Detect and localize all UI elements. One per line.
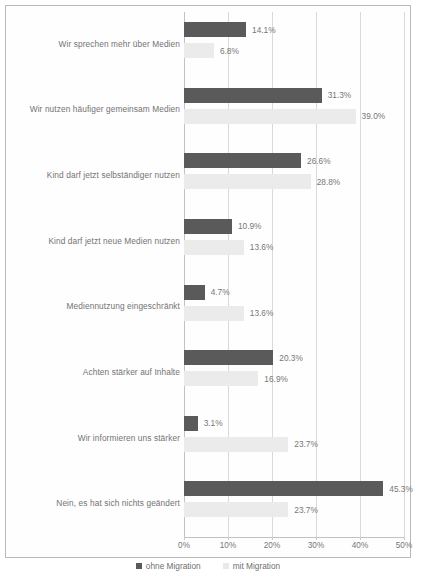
- bar-ohne-migration: [184, 88, 322, 103]
- category-row: Mediennutzung eingeschränkt4.7%13.6%: [184, 275, 404, 341]
- legend-swatch-icon: [136, 563, 142, 569]
- category-row: Wir nutzen häufiger gemeinsam Medien31.3…: [184, 78, 404, 144]
- category-label: Kind darf jetzt selbständiger nutzen: [10, 171, 180, 181]
- category-label: Wir sprechen mehr über Medien: [10, 40, 180, 50]
- bar-value-label: 13.6%: [244, 242, 274, 252]
- category-row: Wir informieren uns stärker3.1%23.7%: [184, 406, 404, 472]
- legend-item[interactable]: ohne Migration: [136, 561, 201, 571]
- bar-value-label: 26.6%: [301, 156, 331, 166]
- category-row: Nein, es hat sich nichts geändert45.3%23…: [184, 471, 404, 537]
- gridline-50: [404, 12, 405, 537]
- bar-group: 39.0%: [184, 109, 404, 124]
- bar-value-label: 23.7%: [288, 439, 318, 449]
- bar-value-label: 3.1%: [198, 418, 223, 428]
- plot-area: Wir sprechen mehr über Medien14.1%6.8%Wi…: [184, 12, 404, 537]
- x-axis-line: [184, 537, 404, 538]
- chart-figure: Wir sprechen mehr über Medien14.1%6.8%Wi…: [5, 5, 411, 558]
- bar-ohne-migration: [184, 153, 301, 168]
- category-row: Wir sprechen mehr über Medien14.1%6.8%: [184, 12, 404, 78]
- bar-mit-migration: [184, 437, 288, 452]
- category-label: Mediennutzung eingeschränkt: [10, 303, 180, 313]
- x-tick-mark: [316, 537, 317, 540]
- category-row: Achten stärker auf Inhalte20.3%16.9%: [184, 340, 404, 406]
- bar-group: 10.9%: [184, 219, 404, 234]
- category-label: Nein, es hat sich nichts geändert: [10, 499, 180, 509]
- category-label: Wir nutzen häufiger gemeinsam Medien: [10, 106, 180, 116]
- bar-ohne-migration: [184, 22, 246, 37]
- category-label: Wir informieren uns stärker: [10, 434, 180, 444]
- bar-group: 45.3%: [184, 481, 404, 496]
- bar-mit-migration: [184, 306, 244, 321]
- bar-ohne-migration: [184, 481, 383, 496]
- caption-remnant: [18, 578, 418, 583]
- bar-mit-migration: [184, 502, 288, 517]
- x-tick-label: 50%: [396, 541, 412, 550]
- bar-group: 14.1%: [184, 22, 404, 37]
- bar-ohne-migration: [184, 219, 232, 234]
- x-tick-mark: [360, 537, 361, 540]
- bar-group: 26.6%: [184, 153, 404, 168]
- bar-ohne-migration: [184, 350, 273, 365]
- bar-value-label: 39.0%: [356, 111, 386, 121]
- bar-mit-migration: [184, 174, 311, 189]
- x-tick-label: 40%: [352, 541, 368, 550]
- bar-ohne-migration: [184, 285, 205, 300]
- bar-value-label: 23.7%: [288, 505, 318, 515]
- legend-item[interactable]: mit Migration: [223, 561, 281, 571]
- x-tick-label: 0%: [178, 541, 190, 550]
- x-tick-mark: [272, 537, 273, 540]
- bar-group: 13.6%: [184, 240, 404, 255]
- bar-group: 6.8%: [184, 43, 404, 58]
- bar-mit-migration: [184, 109, 356, 124]
- x-tick-label: 10%: [220, 541, 236, 550]
- bar-group: 16.9%: [184, 371, 404, 386]
- bar-mit-migration: [184, 240, 244, 255]
- bar-value-label: 28.8%: [311, 177, 341, 187]
- bar-group: 13.6%: [184, 306, 404, 321]
- legend-swatch-icon: [223, 563, 229, 569]
- bar-value-label: 10.9%: [232, 221, 262, 231]
- bar-group: 31.3%: [184, 88, 404, 103]
- x-tick-label: 30%: [308, 541, 324, 550]
- chart-legend: ohne Migrationmit Migration: [6, 561, 410, 571]
- x-tick-mark: [404, 537, 405, 540]
- bar-group: 23.7%: [184, 437, 404, 452]
- legend-label: ohne Migration: [146, 561, 201, 571]
- bar-group: 20.3%: [184, 350, 404, 365]
- category-row: Kind darf jetzt neue Medien nutzen10.9%1…: [184, 209, 404, 275]
- bar-value-label: 6.8%: [214, 46, 239, 56]
- bar-value-label: 14.1%: [246, 25, 276, 35]
- bar-mit-migration: [184, 43, 214, 58]
- x-tick-label: 20%: [264, 541, 280, 550]
- legend-label: mit Migration: [233, 561, 281, 571]
- bar-mit-migration: [184, 371, 258, 386]
- bar-value-label: 31.3%: [322, 90, 352, 100]
- category-label: Kind darf jetzt neue Medien nutzen: [10, 237, 180, 247]
- category-row: Kind darf jetzt selbständiger nutzen26.6…: [184, 143, 404, 209]
- bar-group: 4.7%: [184, 285, 404, 300]
- x-tick-mark: [184, 537, 185, 540]
- bar-value-label: 4.7%: [205, 287, 230, 297]
- bar-value-label: 45.3%: [383, 484, 413, 494]
- category-label: Achten stärker auf Inhalte: [10, 368, 180, 378]
- bar-group: 3.1%: [184, 416, 404, 431]
- bar-ohne-migration: [184, 416, 198, 431]
- bar-value-label: 13.6%: [244, 308, 274, 318]
- bar-value-label: 20.3%: [273, 353, 303, 363]
- x-tick-mark: [228, 537, 229, 540]
- bar-group: 28.8%: [184, 174, 404, 189]
- bar-group: 23.7%: [184, 502, 404, 517]
- bar-value-label: 16.9%: [258, 374, 288, 384]
- x-axis: 0%10%20%30%40%50%: [184, 537, 404, 553]
